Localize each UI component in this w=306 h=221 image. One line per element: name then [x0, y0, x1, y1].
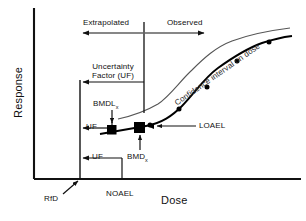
bmdl-label: BMDLx [93, 99, 119, 112]
bmd-label-base: BMD [127, 152, 145, 161]
rfd-label: RfD [44, 194, 58, 203]
rfd-pointer-arrow [63, 181, 78, 194]
axis-lines [34, 8, 301, 179]
bmd-marker [134, 122, 145, 133]
diagram-canvas [0, 0, 306, 221]
bmdl-marker [107, 125, 117, 135]
x-axis-label: Dose [161, 196, 187, 205]
uf-lower-label: UF [92, 152, 103, 161]
bmd-label: BMDx [127, 152, 148, 165]
extrapolated-label: Extrapolated [83, 18, 129, 27]
uf-upper-label: UF [86, 122, 97, 131]
uncertainty-factor-label-line1: Uncertainty [84, 62, 142, 71]
bmd-label-subscript: x [145, 157, 148, 163]
y-axis-label: Response [14, 67, 23, 118]
bmdl-label-subscript: x [116, 104, 119, 110]
uncertainty-factor-label-line2: Factor (UF) [84, 71, 142, 80]
bmdl-label-base: BMDL [93, 99, 116, 108]
noael-label: NOAEL [106, 189, 134, 198]
loael-label: LOAEL [199, 121, 225, 130]
observed-label: Observed [167, 18, 202, 27]
bmd-dose-response-diagram: Response Dose Extrapolated Observed Unce… [0, 0, 306, 221]
